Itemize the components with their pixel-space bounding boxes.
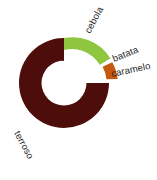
pie-chart-svg: cebola batata caramelo terroso xyxy=(0,0,157,180)
pie-chart: cebola batata caramelo terroso xyxy=(0,0,157,180)
slice-label-batata: batata xyxy=(111,43,141,64)
slice-label-cebola: cebola xyxy=(82,4,105,35)
slice-cebola[interactable] xyxy=(59,37,111,65)
slice-label-terroso: terroso xyxy=(12,129,36,161)
donut-hole xyxy=(53,72,76,95)
